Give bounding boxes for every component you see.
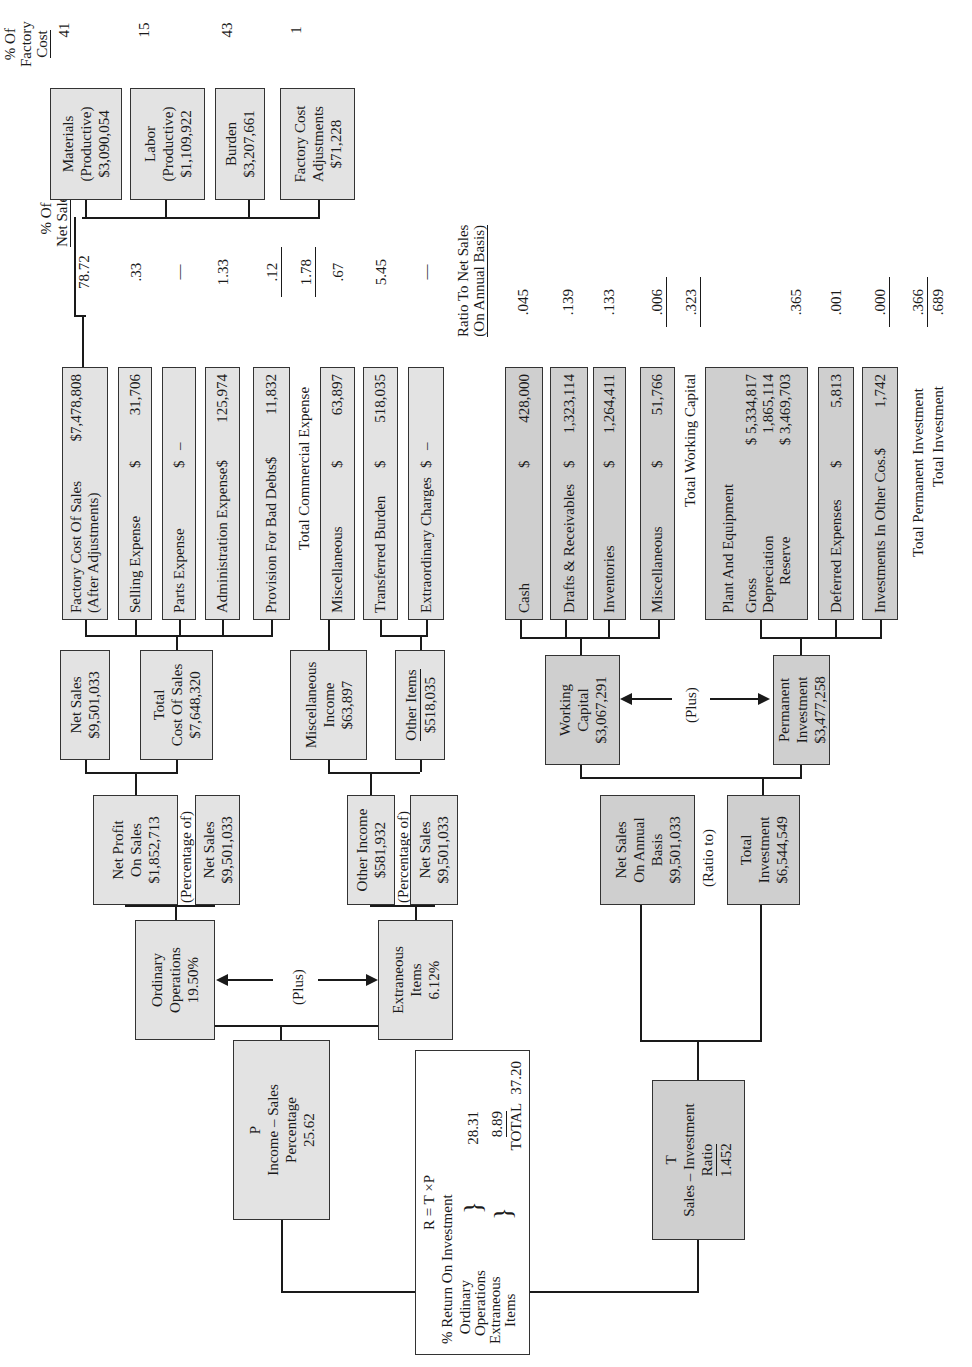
misc-income-line2: Income	[320, 683, 338, 728]
roi-extraneous-label: Extraneous	[487, 1277, 503, 1344]
permanent-item-investments: Investments In Other Cos. $ 1,742	[862, 367, 898, 620]
plant-dep-label: Depreciation	[760, 536, 777, 613]
permanent-item-currency: $	[828, 450, 845, 468]
ratio-total-investment: .689	[930, 277, 947, 327]
factory-header-line3: Cost	[34, 30, 51, 58]
cost-item-amount: 31,706	[127, 374, 144, 450]
ratio-miscellaneous: .006	[649, 277, 667, 327]
ratio-header: Ratio To Net Sales (On Annual Basis)	[455, 225, 487, 337]
cost-item-amount: 125,974	[214, 374, 231, 450]
ratio-receivables: .139	[560, 277, 577, 327]
total-investment-label: Total Investment	[930, 386, 947, 487]
factory-item-burden: Burden $3,207,661	[215, 88, 265, 200]
p-value: 25.62	[300, 1113, 318, 1147]
other-item-label: Transferred Burden	[372, 468, 389, 613]
other-item-amount: 518,035	[372, 374, 389, 450]
ns-annual-line1: Net Sales	[612, 821, 630, 878]
ratio-investments-other: .000	[872, 277, 890, 327]
permanent-investment-line2: Investment	[793, 677, 811, 744]
roi-ordinary-value: 28.31	[464, 1061, 482, 1145]
extraneous-line1: Extraneous	[389, 946, 407, 1013]
roi-ordinary-label: Ordinary	[457, 1280, 473, 1334]
total-investment-value: $6,544,549	[773, 816, 791, 884]
working-item-miscellaneous: Miscellaneous $ 51,766	[640, 367, 675, 620]
pct-header-line1: % Of	[38, 202, 54, 234]
net-profit-on-sales-box: Net Profit On Sales $1,852,713	[93, 795, 178, 905]
t-value: 1.452	[717, 1143, 735, 1177]
other-items-line1: Other Items	[402, 669, 421, 740]
pct-total-commercial: 1.78	[298, 247, 316, 297]
factory-item-materials: Materials (Productive) $3,090,054	[50, 88, 122, 200]
pct-selling: .33	[128, 247, 145, 297]
factory-item-line1: Burden	[222, 122, 240, 166]
factory-item-value: $3,207,661	[240, 110, 258, 178]
factory-item-value: $3,090,054	[95, 110, 113, 178]
total-investment-line2: Investment	[755, 817, 773, 884]
other-income-value: $581,932	[371, 822, 389, 878]
cost-item-selling: Selling Expense $ 31,706	[118, 367, 152, 620]
misc-income-line1: Miscellaneous	[302, 662, 320, 749]
factory-item-adjustments: Factory Cost Adjustments $71,228	[280, 88, 355, 200]
working-capital-value: $3,067,291	[592, 676, 610, 744]
net-sales-box-a: Net Sales $9,501,033	[195, 795, 240, 905]
return-on-investment-chart: R = T ×P % Return On Investment Ordinary…	[0, 0, 972, 1367]
percentage-of-label-1: (Percentage of)	[178, 811, 195, 903]
pct-miscellaneous: .67	[330, 247, 347, 297]
plant-gross-value: $ 5,334,817	[743, 374, 760, 445]
cost-item-currency: $	[263, 447, 280, 464]
roi-caption: % Return On Investment	[438, 1194, 456, 1344]
plus-arrow-up-icon	[218, 979, 273, 981]
working-item-label: Inventories	[601, 468, 618, 613]
permanent-investment-value: $3,477,258	[811, 676, 829, 744]
net-sales-top-line1: Net Sales	[67, 676, 85, 733]
working-item-currency: $	[649, 450, 666, 468]
net-sales-b-value: $9,501,033	[434, 816, 452, 884]
net-sales-annual-box: Net Sales On Annual Basis $9,501,033	[600, 795, 695, 905]
p-line1: Income – Sales	[264, 1084, 282, 1176]
factory-item-value: $1,109,922	[177, 110, 195, 178]
total-investment-line1: Total	[737, 835, 755, 866]
net-profit-value: $1,852,713	[145, 816, 163, 884]
working-capital-line2: Capital	[574, 688, 592, 731]
pct-factory-header: % Of Factory Cost	[2, 21, 50, 67]
cost-item-label: Factory Cost Of Sales	[68, 481, 84, 613]
cost-item-bad-debts: Provision For Bad Debts $ 11,832	[253, 367, 290, 620]
working-item-label: Drafts & Receivables	[561, 468, 578, 613]
factory-item-labor: Labor (Productive) $1,109,922	[130, 88, 205, 200]
roi-extraneous-label-2: Items	[502, 1294, 518, 1327]
other-item-currency: $	[418, 450, 435, 468]
working-item-currency: $	[561, 450, 578, 468]
working-item-receivables: Drafts & Receivables $ 1,323,114	[550, 367, 588, 620]
cost-item-currency: $	[171, 450, 188, 468]
working-item-label: Cash	[516, 468, 533, 613]
ns-annual-line2: On Annual	[630, 817, 648, 882]
working-item-amount: 51,766	[649, 374, 666, 450]
t-letter: T	[662, 1155, 680, 1164]
t-line1: Sales – Investment	[680, 1103, 698, 1216]
factory-item-line1: Factory Cost	[291, 105, 309, 182]
ratio-total-working-capital: .323	[683, 277, 701, 327]
total-cost-of-sales-box: Total Cost Of Sales $7,648,320	[140, 650, 213, 760]
total-commercial-expense-label: Total Commercial Expense	[296, 387, 313, 550]
roi-box: R = T ×P % Return On Investment Ordinary…	[415, 1050, 530, 1355]
working-item-amount: 1,323,114	[561, 374, 578, 450]
factory-pct-adjustments: 1	[288, 5, 305, 55]
cost-item-amount: 11,832	[263, 374, 280, 447]
working-item-currency: $	[516, 450, 533, 468]
ordinary-value: 19.50%	[184, 957, 202, 1003]
other-items-value: $518,035	[421, 677, 439, 733]
plant-dep-value: 1,865,114	[760, 374, 777, 433]
ratio-plant: .365	[788, 277, 805, 327]
plant-gross-row: Gross $ 5,334,817	[743, 374, 760, 613]
ratio-total-permanent: .366	[910, 277, 928, 327]
other-item-label: Extraordinary Charges	[418, 468, 435, 613]
permanent-investment-box: Permanent Investment $3,477,258	[773, 655, 830, 765]
cost-item-amount: $7,478,808	[68, 374, 85, 450]
plus-label-top: (Plus)	[290, 969, 307, 1005]
cost-item-label: Administration Expense	[214, 468, 231, 613]
plant-reserve-row: Reserve $ 3,469,703	[777, 374, 794, 613]
ns-annual-value: $9,501,033	[666, 816, 684, 884]
extraneous-value: 6.12%	[425, 961, 443, 1000]
factory-header-line2: Factory	[18, 21, 34, 67]
cost-item-currency: $	[214, 450, 231, 468]
